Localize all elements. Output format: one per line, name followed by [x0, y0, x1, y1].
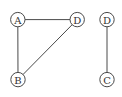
edge-b-d: [18, 20, 77, 80]
node-d: D: [100, 12, 114, 26]
node-label: A: [13, 15, 22, 26]
node-label: D: [73, 15, 81, 26]
edges-layer: [18, 20, 107, 80]
graph-diagram: ADBDC: [0, 0, 122, 97]
node-b: B: [11, 72, 25, 86]
node-label: D: [103, 15, 111, 26]
node-a: A: [11, 12, 25, 26]
node-label: C: [103, 75, 111, 86]
nodes-layer: ADBDC: [11, 12, 115, 86]
node-label: B: [14, 75, 21, 86]
node-c: C: [100, 72, 114, 86]
node-d: D: [70, 12, 84, 26]
